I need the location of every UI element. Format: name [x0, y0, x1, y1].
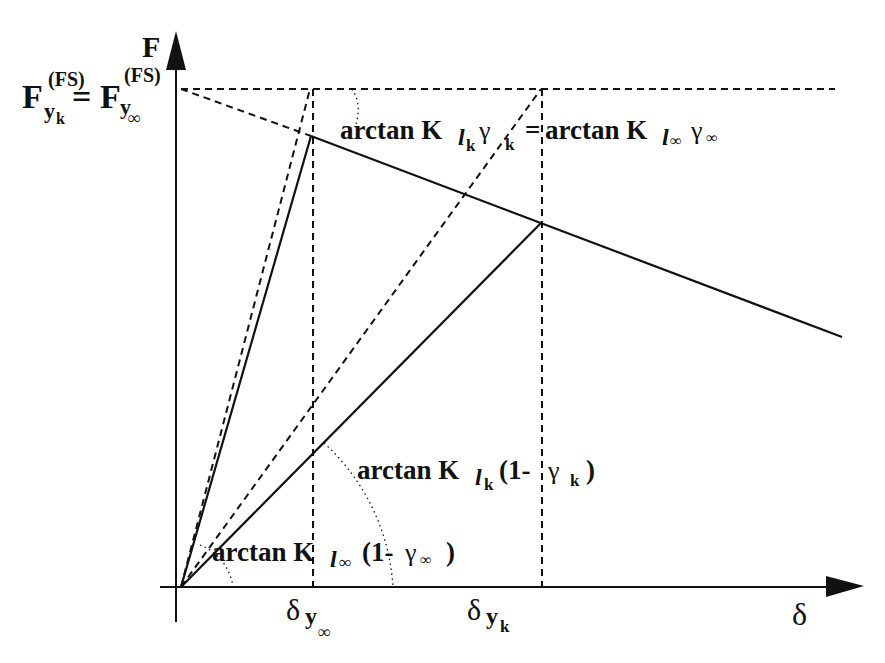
force-displacement-diagram: F δ F y k (FS) = F y ∞ (FS) arctan K l k… [0, 0, 885, 663]
post-yield-branch [311, 136, 842, 337]
angle-low-gamma-sub: ∞ [420, 551, 431, 568]
soft-elastic-branch [181, 222, 542, 587]
angle-low-subsub: ∞ [339, 553, 351, 572]
x-tick-delta-y-k: δ y k [467, 593, 510, 636]
fy-k-subsub: k [56, 110, 65, 127]
angle-top-lhs-prefix: arctan K [340, 115, 442, 145]
angle-low-prefix: arctan K [212, 537, 314, 567]
angle-top-rhs-subsub: ∞ [670, 132, 681, 149]
angle-label-low: arctan K l ∞ (1- γ ∞ ) [212, 537, 455, 572]
angle-top-rhs-gamma-sub: ∞ [706, 129, 717, 146]
angle-top-lhs-subsub: k [466, 136, 476, 155]
angle-mid-sub: l [475, 464, 482, 490]
angle-label-mid: arctan K l k (1- γ k ) [357, 455, 595, 494]
angle-low-open: (1- [362, 537, 393, 567]
x-tick-1-subsub: ∞ [318, 622, 331, 642]
x-tick-2-main: δ [467, 593, 481, 626]
x-tick-1-sub: y [305, 603, 317, 629]
angle-top-rhs-sub: l [662, 124, 669, 150]
angle-top-lhs-gamma: γ [478, 116, 491, 145]
y-axis-arrow-icon [166, 31, 186, 70]
solid-curves [181, 136, 842, 587]
x-tick-2-sub: y [486, 603, 498, 629]
fy-k-sub: y [44, 98, 55, 123]
angle-top-lhs-sub: l [458, 124, 465, 150]
angle-low-close: ) [446, 537, 455, 567]
fy-inf-sup: (FS) [124, 64, 161, 87]
fy-k-main: F [22, 78, 43, 115]
x-tick-delta-y-inf: δ y ∞ [286, 593, 331, 642]
x-axis-label: δ [792, 596, 807, 632]
angle-mid-prefix: arctan K [357, 455, 459, 485]
x-axis-arrow-icon [826, 576, 864, 597]
angle-mid-subsub: k [484, 475, 494, 494]
x-tick-1-main: δ [286, 593, 300, 626]
angle-mid-open: (1- [499, 455, 530, 485]
angle-arcs [200, 89, 393, 587]
yield-force-equation: F y k (FS) = F y ∞ (FS) [22, 64, 161, 128]
stiff-elastic-branch [181, 136, 311, 587]
angle-low-sub: l [330, 546, 337, 572]
angle-top-equals: = [525, 115, 540, 145]
angle-mid-gamma-sub: k [570, 471, 580, 490]
angle-top-rhs-prefix: arctan K [545, 115, 647, 145]
angle-label-top: arctan K l k γ k = arctan K l ∞ γ ∞ [340, 115, 717, 155]
angle-mid-gamma: γ [547, 456, 560, 485]
soft-initial-stiffness-line [181, 89, 541, 587]
angle-low-gamma: γ [404, 538, 417, 567]
stiff-initial-stiffness-line [181, 89, 310, 587]
fy-equals: = [72, 78, 91, 115]
x-tick-2-subsub: k [500, 617, 510, 636]
fy-inf-main: F [100, 78, 121, 115]
fy-inf-subsub: ∞ [128, 108, 141, 128]
angle-mid-close: ) [586, 455, 595, 485]
y-axis-label: F [142, 30, 160, 63]
post-yield-projection-line [181, 89, 311, 136]
angle-top-rhs-gamma: γ [690, 116, 703, 145]
dashed-construction-lines [181, 89, 835, 587]
angle-top-lhs-gamma-sub: k [505, 135, 515, 154]
